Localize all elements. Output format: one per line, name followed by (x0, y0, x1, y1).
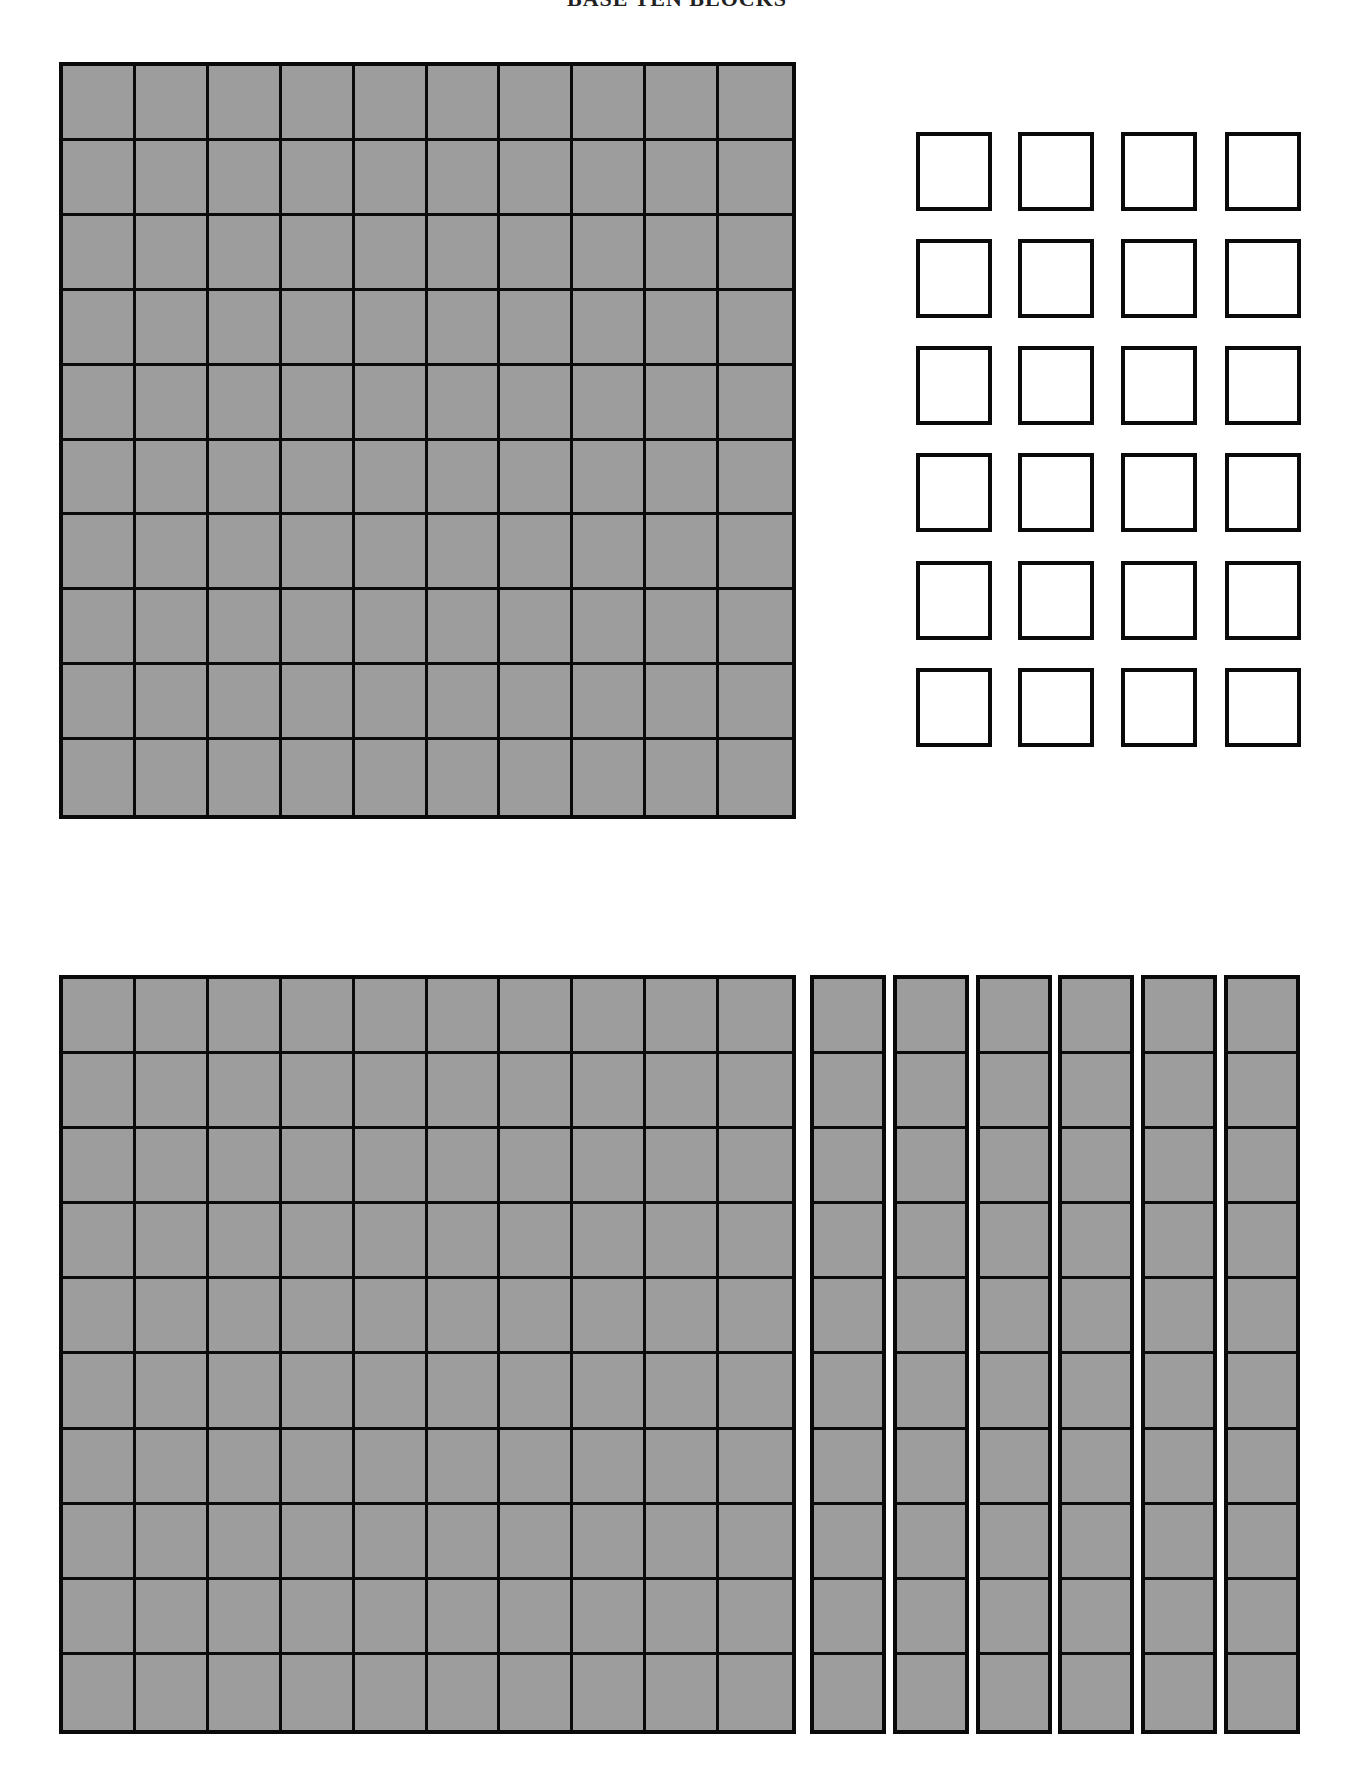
flat-cell (355, 1354, 428, 1429)
flat-cell (136, 1204, 209, 1279)
rod-cell (814, 979, 882, 1054)
flat-cell (355, 665, 428, 740)
rod-cell (1062, 1054, 1130, 1129)
flat-cell (136, 441, 209, 516)
flat-cell (573, 1354, 646, 1429)
flat-cell (136, 216, 209, 291)
flat-cell (209, 1505, 282, 1580)
flat-cell (500, 141, 573, 216)
flat-cell (355, 366, 428, 441)
flat-cell (355, 1505, 428, 1580)
flat-cell (646, 665, 719, 740)
rod-cell (814, 1279, 882, 1354)
flat-cell (646, 1505, 719, 1580)
flat-cell (500, 441, 573, 516)
flat-cell (282, 216, 355, 291)
flat-cell (500, 1430, 573, 1505)
rod-cell (1062, 1279, 1130, 1354)
unit-cube (916, 561, 992, 640)
flat-cell (428, 366, 501, 441)
rod-cell (897, 1054, 965, 1129)
rod-cell (1228, 979, 1296, 1054)
flat-cell (500, 1580, 573, 1655)
rod-cell (814, 1354, 882, 1429)
flat-cell (63, 291, 136, 366)
tens-rod (1141, 975, 1217, 1734)
flat-cell (500, 1204, 573, 1279)
flat-cell (136, 1279, 209, 1354)
rod-cell (1062, 979, 1130, 1054)
flat-cell (209, 216, 282, 291)
flat-cell (719, 1430, 792, 1505)
flat-cell (500, 1505, 573, 1580)
flat-cell (63, 1204, 136, 1279)
unit-cube (1018, 453, 1094, 532)
flat-cell (136, 1129, 209, 1204)
flat-cell (573, 1430, 646, 1505)
flat-cell (646, 1129, 719, 1204)
rod-cell (1228, 1129, 1296, 1204)
flat-cell (209, 1204, 282, 1279)
rod-cell (980, 1430, 1048, 1505)
rod-cell (1228, 1054, 1296, 1129)
rod-cell (1062, 1655, 1130, 1730)
flat-cell (63, 441, 136, 516)
rod-cell (1145, 1430, 1213, 1505)
flat-cell (719, 216, 792, 291)
rod-cell (1062, 1505, 1130, 1580)
flat-cell (209, 665, 282, 740)
flat-cell (282, 66, 355, 141)
flat-cell (63, 216, 136, 291)
flat-cell (573, 1279, 646, 1354)
flat-cell (63, 1505, 136, 1580)
unit-cube (916, 239, 992, 318)
flat-cell (355, 740, 428, 815)
flat-cell (282, 1580, 355, 1655)
flat-cell (63, 1655, 136, 1730)
flat-cell (573, 1129, 646, 1204)
flat-cell (573, 291, 646, 366)
flat-cell (282, 1054, 355, 1129)
flat-cell (719, 665, 792, 740)
flat-cell (209, 979, 282, 1054)
flat-cell (355, 1279, 428, 1354)
flat-cell (428, 665, 501, 740)
flat-cell (282, 740, 355, 815)
flat-cell (282, 441, 355, 516)
flat-cell (355, 1204, 428, 1279)
flat-cell (500, 1279, 573, 1354)
flat-cell (428, 1505, 501, 1580)
flat-cell (719, 1580, 792, 1655)
flat-cell (63, 515, 136, 590)
flat-cell (719, 979, 792, 1054)
unit-cube (1018, 668, 1094, 747)
flat-cell (719, 1354, 792, 1429)
flat-cell (355, 216, 428, 291)
flat-cell (719, 515, 792, 590)
flat-cell (500, 216, 573, 291)
flat-cell (63, 665, 136, 740)
flat-cell (646, 1279, 719, 1354)
flat-cell (136, 665, 209, 740)
flat-cell (209, 366, 282, 441)
flat-cell (63, 1054, 136, 1129)
hundreds-flat-top (59, 62, 796, 819)
flat-cell (136, 66, 209, 141)
unit-cube (1225, 453, 1301, 532)
flat-cell (209, 141, 282, 216)
flat-cell (209, 441, 282, 516)
flat-cell (719, 441, 792, 516)
flat-cell (719, 1279, 792, 1354)
flat-cell (646, 515, 719, 590)
rod-cell (814, 1129, 882, 1204)
rod-cell (814, 1580, 882, 1655)
flat-cell (500, 979, 573, 1054)
flat-cell (209, 1054, 282, 1129)
flat-cell (500, 1129, 573, 1204)
flat-cell (136, 1354, 209, 1429)
unit-cube (1121, 132, 1197, 211)
flat-cell (136, 1505, 209, 1580)
flat-cell (63, 1279, 136, 1354)
rod-cell (897, 1354, 965, 1429)
flat-cell (282, 1505, 355, 1580)
